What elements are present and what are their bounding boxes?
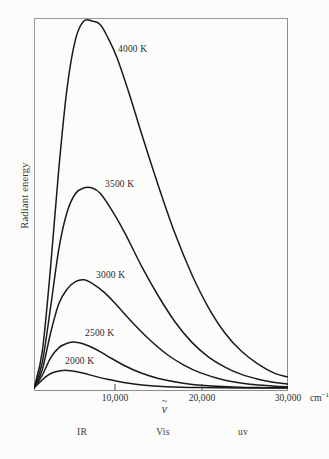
curve-label-3000-k: 3000 K <box>96 270 125 280</box>
region-label-ir: IR <box>77 427 87 437</box>
x-unit-exponent: −1 <box>322 391 329 399</box>
curve-label-4000-k: 4000 K <box>118 44 147 54</box>
region-label-uv: uv <box>238 427 248 437</box>
curve-paths <box>34 19 288 388</box>
curve-label-2500-k: 2500 K <box>85 328 114 338</box>
curves-layer <box>34 18 288 391</box>
tilde-accent: ~ <box>162 395 167 406</box>
curve-label-3500-k: 3500 K <box>105 179 134 189</box>
curve-3000k <box>34 280 288 388</box>
figure-blackbody-radiation: Radiant energy 10,00020,00030,000 cm−1 ~… <box>0 0 329 459</box>
x-axis-symbol: ~ ν <box>0 402 329 417</box>
nu-tilde-glyph: ~ ν <box>162 402 167 417</box>
y-axis-title: Radiant energy <box>19 136 30 256</box>
curve-4000k <box>34 19 288 388</box>
region-label-vis: Vis <box>156 427 170 437</box>
curve-label-2000-k: 2000 K <box>65 356 94 366</box>
